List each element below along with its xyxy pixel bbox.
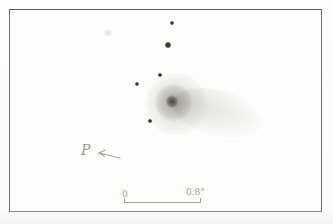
star-dot	[165, 42, 170, 47]
star-dot	[148, 119, 152, 123]
comet-sketch-figure: P 0 0.8°	[0, 0, 333, 224]
scalebar-tick-right	[200, 198, 201, 203]
paper-smudge	[103, 29, 113, 37]
scalebar-label-zero: 0	[122, 190, 128, 199]
scalebar-line	[124, 202, 201, 203]
star-dot	[158, 73, 162, 77]
star-dot	[135, 82, 139, 86]
comet-nucleus	[166, 95, 178, 108]
left-arrow-icon	[92, 148, 122, 162]
scalebar-label-angle: 0.8°	[186, 188, 205, 197]
direction-label: P	[81, 143, 90, 157]
